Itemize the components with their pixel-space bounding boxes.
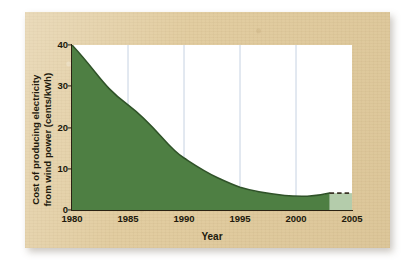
x-tick-label-1985: 1985	[117, 214, 138, 224]
x-tick-label-1995: 1995	[229, 214, 250, 224]
y-axis-title-line2: from wind power (cents/kWh)	[42, 50, 54, 230]
x-axis-title: Year	[72, 231, 352, 242]
y-tick-mark-0	[68, 209, 72, 210]
plot-area	[72, 45, 352, 210]
x-tick-label-1990: 1990	[173, 214, 194, 224]
y-axis-title-line1: Cost of producing electricity	[30, 50, 42, 230]
x-tick-label-1980: 1980	[61, 214, 82, 224]
x-tick-label-2005: 2005	[341, 214, 362, 224]
projected-area	[330, 193, 352, 210]
x-tick-label-2000: 2000	[285, 214, 306, 224]
x-axis-line	[71, 210, 353, 211]
y-axis-title: Cost of producing electricity from wind …	[30, 50, 53, 230]
y-tick-mark-30	[68, 86, 72, 87]
y-tick-label-40: 40	[44, 40, 68, 50]
x-tick-labels: 1980 1985 1990 1995 2000 2005	[0, 214, 407, 230]
y-tick-mark-40	[68, 44, 72, 45]
y-tick-mark-10	[68, 168, 72, 169]
chart-svg	[72, 45, 352, 210]
historical-area	[72, 45, 330, 210]
y-tick-mark-20	[68, 127, 72, 128]
chart-screenshot: 40 30 20 10 0 1980 1985 1990 1995 2000 2…	[0, 0, 407, 272]
